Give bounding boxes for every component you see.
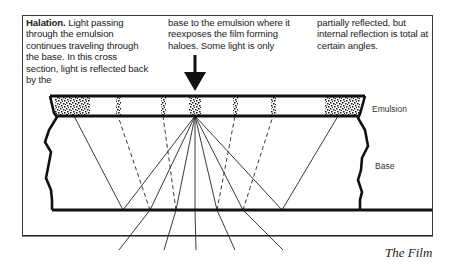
exit-ray <box>195 210 196 250</box>
halation-diagram <box>0 0 455 264</box>
halo-spot <box>189 97 201 115</box>
film-structure <box>22 96 433 236</box>
light-rays <box>74 116 338 250</box>
halo-spot <box>161 97 166 115</box>
dashed-ray <box>163 116 176 210</box>
exit-ray <box>217 210 235 250</box>
ray <box>195 116 243 210</box>
exit-ray <box>243 210 283 250</box>
halo-spot <box>325 97 360 115</box>
ray <box>150 116 195 210</box>
ray <box>176 116 195 210</box>
page-footer-title: The Film <box>385 245 432 261</box>
ray <box>195 116 217 210</box>
exit-ray <box>164 210 176 250</box>
exit-ray <box>119 210 150 250</box>
incoming-light-arrow-icon <box>184 55 206 91</box>
partial-reflection-rays <box>118 116 273 210</box>
halo-spot <box>233 97 238 115</box>
left-torn-edge <box>45 96 57 210</box>
reflected-ray <box>74 116 123 210</box>
halo-spot <box>271 97 276 115</box>
dashed-ray <box>217 116 235 210</box>
reflected-ray <box>282 116 338 210</box>
right-torn-edge <box>358 96 368 210</box>
emulsion-label: Emulsion <box>372 104 407 114</box>
base-label: Base <box>375 161 394 171</box>
halo-spots <box>55 97 360 115</box>
halo-spot <box>116 97 121 115</box>
halo-spot <box>55 97 90 115</box>
